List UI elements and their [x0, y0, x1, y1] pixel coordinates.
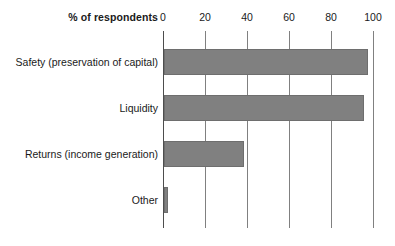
plot-area: [163, 31, 373, 228]
x-tick-label-20: 20: [199, 11, 211, 23]
x-tick-label-40: 40: [241, 11, 253, 23]
bar: [164, 95, 364, 121]
gridline-100: [373, 31, 374, 228]
category-label: Liquidity: [0, 102, 158, 114]
category-label: Safety (preservation of capital): [0, 56, 158, 68]
x-tick-label-80: 80: [325, 11, 337, 23]
bar: [164, 49, 368, 75]
bar-chart: % of respondents 020406080100 Safety (pr…: [0, 0, 395, 246]
bar: [164, 187, 168, 213]
x-tick-label-60: 60: [283, 11, 295, 23]
axis-title: % of respondents: [0, 11, 158, 23]
x-tick-label-0: 0: [160, 11, 166, 23]
x-tick-label-100: 100: [364, 11, 382, 23]
bar: [164, 141, 244, 167]
category-label: Other: [0, 194, 158, 206]
category-label: Returns (income generation): [0, 148, 158, 160]
